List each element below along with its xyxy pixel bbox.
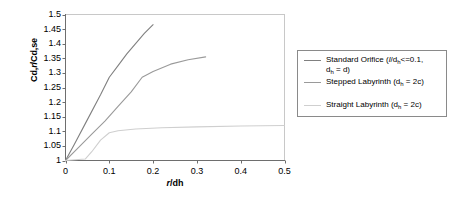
legend-label-subscript: h: [400, 81, 403, 87]
legend-label-text: = 2c): [404, 77, 424, 86]
chart-figure: 11.051.11.151.21.251.31.351.41.451.5 00.…: [0, 0, 468, 204]
legend-swatch-straight-labyrinth: [304, 105, 321, 106]
legend-label-subscript: h: [397, 59, 400, 65]
legend-label-subscript: h: [398, 104, 401, 110]
y-axis-title-part-a: Cd,: [29, 68, 39, 82]
legend-label-stepped-labyrinth: Stepped Labyrinth (dh = 2c): [326, 77, 424, 87]
legend-label-text: = d): [334, 65, 350, 74]
legend-item-stepped-labyrinth[interactable]: Stepped Labyrinth (dh = 2c): [298, 77, 448, 87]
legend-label-standard-orifice: Standard Orifice (l/dh<=0.1,dh = d): [326, 55, 423, 75]
legend-label-text: Standard Orifice (: [326, 55, 389, 64]
x-tick-label: 0.4: [221, 167, 261, 176]
legend-label-text: Stepped Labyrinth (d: [326, 77, 400, 86]
legend-label-text: <=0.1,: [401, 55, 424, 64]
x-tick-label: 0.3: [177, 167, 217, 176]
x-tick-label: 0.5: [265, 167, 305, 176]
legend-label-text: = 2c): [401, 100, 421, 109]
x-tick-label: 0.2: [133, 167, 173, 176]
x-tick-label: 0.1: [89, 167, 129, 176]
y-axis-title: Cd,r/Cd,se: [29, 0, 39, 120]
legend-swatch-stepped-labyrinth: [304, 82, 321, 83]
legend-item-straight-labyrinth[interactable]: Straight Labyrinth (dh = 2c): [298, 100, 448, 110]
legend-item-standard-orifice[interactable]: Standard Orifice (l/dh<=0.1,dh = d): [298, 55, 448, 75]
chart-legend: Standard Orifice (l/dh<=0.1,dh = d) Step…: [297, 50, 447, 117]
legend-label-text: Straight Labyrinth (d: [326, 100, 398, 109]
legend-label-subscript: h: [330, 69, 333, 75]
y-axis-title-part-b: /Cd,se: [29, 38, 39, 64]
x-tick-label: 0: [46, 167, 86, 176]
y-axis-title-part-italic: r: [29, 64, 39, 67]
x-axis-title-part-b: /dh: [170, 178, 184, 188]
legend-swatch-standard-orifice: [304, 60, 321, 61]
x-axis-title: r/dh: [65, 178, 285, 188]
legend-label-straight-labyrinth: Straight Labyrinth (dh = 2c): [326, 100, 422, 110]
